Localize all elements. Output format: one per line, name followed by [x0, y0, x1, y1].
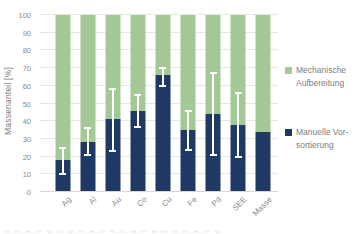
bar-segment-manuelle-vorsortierung	[155, 75, 170, 192]
y-tick-label: 90	[23, 28, 31, 37]
error-bar-cap-bottom	[84, 154, 91, 156]
error-bar-cap-top	[109, 88, 116, 90]
error-bar-line	[62, 148, 64, 175]
error-bar-cap-bottom	[185, 149, 192, 151]
legend-swatch-icon	[285, 129, 292, 136]
legend-item: Manuelle Vor-sortierung	[285, 126, 348, 152]
bar-group-pd	[201, 15, 226, 192]
error-bar-line	[162, 68, 164, 86]
y-axis-tick-labels: 0102030405060708090100	[0, 15, 34, 192]
plot-area	[40, 15, 278, 192]
bar-group-masse	[251, 15, 276, 192]
error-bar-line	[137, 95, 139, 127]
error-bar-cap-top	[235, 92, 242, 94]
error-bar-cap-bottom	[210, 154, 217, 156]
x-tick-label-see: SEE	[231, 195, 249, 213]
error-bar-cap-bottom	[235, 156, 242, 158]
error-bar-cap-top	[134, 94, 141, 96]
x-tick-label-pd: Pd	[210, 195, 223, 208]
error-bar-cap-top	[210, 72, 217, 74]
y-tick-label: 60	[23, 81, 31, 90]
error-bar-line	[112, 89, 114, 151]
y-tick-label: 80	[23, 46, 31, 55]
x-axis-tick-labels: AgAlAuCoCuFePdSEEMasse	[50, 195, 276, 231]
bar-group-fe	[176, 15, 201, 192]
legend-swatch-icon	[285, 67, 292, 74]
bar-group-au	[100, 15, 125, 192]
error-bar-cap-top	[185, 110, 192, 112]
y-tick-label: 20	[23, 152, 31, 161]
x-tick-label-co: Co	[135, 195, 149, 209]
error-bar-line	[237, 93, 239, 157]
error-bar-cap-bottom	[59, 173, 66, 175]
error-bar-cap-top	[159, 67, 166, 69]
bar-segment-mechanische-aufbereitung	[256, 15, 271, 132]
bar-group-cu	[150, 15, 175, 192]
bar-group-co	[125, 15, 150, 192]
y-tick-label: 10	[23, 170, 31, 179]
x-tick-label-fe: Fe	[186, 195, 199, 208]
y-tick-label: 70	[23, 64, 31, 73]
legend-label: Manuelle Vor-sortierung	[296, 126, 348, 152]
error-bar-cap-top	[84, 127, 91, 129]
bar-group-see	[226, 15, 251, 192]
stacked-bar	[181, 15, 196, 192]
bar-segment-mechanische-aufbereitung	[55, 15, 70, 160]
error-bar-line	[187, 111, 189, 150]
legend-label: MechanischeAufbereitung	[296, 64, 346, 90]
bar-segment-mechanische-aufbereitung	[80, 15, 95, 142]
stacked-bar-chart-figure: Massenanteil [%] 0102030405060708090100 …	[0, 0, 356, 234]
stacked-bar	[80, 15, 95, 192]
cropped-caption-fragment	[5, 230, 220, 233]
x-tick-label-ag: Ag	[60, 195, 73, 208]
x-tick-label-masse: Masse	[251, 195, 274, 218]
bar-segment-manuelle-vorsortierung	[256, 132, 271, 192]
y-tick-label: 50	[23, 99, 31, 108]
y-tick-label: 0	[27, 188, 31, 197]
bar-group-ag	[50, 15, 75, 192]
x-tick-label-cu: Cu	[160, 195, 174, 209]
stacked-bar	[256, 15, 271, 192]
error-bar-cap-bottom	[134, 126, 141, 128]
y-tick-label: 40	[23, 117, 31, 126]
error-bar-line	[212, 73, 214, 154]
bar-group-al	[75, 15, 100, 192]
x-tick-label-al: Al	[87, 195, 98, 206]
x-tick-label-au: Au	[110, 195, 123, 208]
bars-container	[50, 15, 276, 192]
error-bar-cap-bottom	[159, 85, 166, 87]
error-bar-cap-top	[59, 147, 66, 149]
legend-item: MechanischeAufbereitung	[285, 64, 346, 90]
stacked-bar	[155, 15, 170, 192]
error-bar-line	[87, 128, 89, 155]
y-tick-label: 100	[18, 11, 31, 20]
error-bar-cap-bottom	[109, 150, 116, 152]
y-tick-label: 30	[23, 134, 31, 143]
x-axis-line	[40, 191, 278, 192]
